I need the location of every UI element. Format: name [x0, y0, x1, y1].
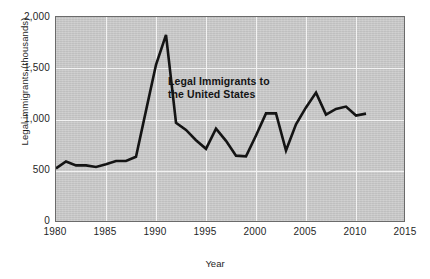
y-axis-title: Legal immigrants (thousands) [19, 2, 30, 162]
immigration-line-chart-figure: 2,000 1,500 1,000 500 0 Legal immigrants… [0, 0, 430, 279]
plot-area: Legal Immigrants to the United States [55, 16, 405, 222]
series-annotation-label: Legal Immigrants to the United States [168, 75, 293, 102]
data-series-line [56, 17, 405, 222]
annotation-line-2: the United States [168, 88, 293, 101]
x-tick-label-1990: 1990 [130, 226, 180, 237]
x-tick-label-2015: 2015 [380, 226, 430, 237]
x-tick-label-2005: 2005 [280, 226, 330, 237]
x-tick-label-2010: 2010 [330, 226, 380, 237]
x-tick-label-1980: 1980 [30, 226, 80, 237]
y-tick-label-0: 0 [4, 215, 50, 226]
x-tick-label-2000: 2000 [230, 226, 280, 237]
x-axis: 1980 1985 1990 1995 2000 2005 2010 2015 [0, 226, 430, 242]
y-tick-label-500: 500 [4, 164, 50, 175]
x-tick-label-1995: 1995 [180, 226, 230, 237]
x-axis-title: Year [0, 258, 430, 269]
x-tick-label-1985: 1985 [80, 226, 130, 237]
annotation-line-1: Legal Immigrants to [168, 75, 293, 88]
